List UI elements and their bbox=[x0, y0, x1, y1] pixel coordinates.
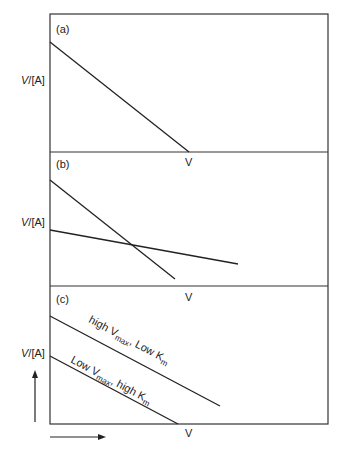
panel-c-label: (c) bbox=[56, 293, 69, 305]
line-low-vmax-high-km bbox=[50, 356, 178, 424]
svg-text:high Vmax, Low Km: high Vmax, Low Km bbox=[86, 313, 173, 369]
y-direction-arrow-icon bbox=[32, 370, 38, 422]
panel-b-ylabel: V/[A] bbox=[21, 216, 45, 228]
x-direction-arrow-icon bbox=[50, 434, 106, 440]
kinetics-figure: (a) V/[A] V (b) V/[A] V (c) V/[A] high V… bbox=[0, 0, 344, 450]
panel-c: (c) V/[A] high Vmax, Low Km Low Vmax, hi… bbox=[21, 293, 220, 439]
panel-b-steep-line bbox=[50, 180, 175, 279]
panel-c-ylabel: V/[A] bbox=[21, 347, 45, 359]
panel-b-xlabel: V bbox=[185, 291, 193, 303]
panel-a-xlabel: V bbox=[185, 156, 193, 168]
panel-a: (a) V/[A] V bbox=[21, 23, 193, 168]
label-high-vmax-low-km: high Vmax, Low Km bbox=[86, 313, 173, 369]
panel-a-label: (a) bbox=[56, 23, 69, 35]
svg-text:Low Vmax, high Km: Low Vmax, high Km bbox=[68, 353, 155, 409]
panel-a-line bbox=[50, 42, 189, 152]
panel-b: (b) V/[A] V bbox=[21, 158, 238, 303]
panel-a-ylabel: V/[A] bbox=[21, 74, 45, 86]
panel-b-label: (b) bbox=[56, 158, 69, 170]
panel-b-shallow-line bbox=[50, 230, 238, 264]
label-low-vmax-high-km: Low Vmax, high Km bbox=[68, 353, 155, 409]
panel-c-xlabel: V bbox=[185, 427, 193, 439]
